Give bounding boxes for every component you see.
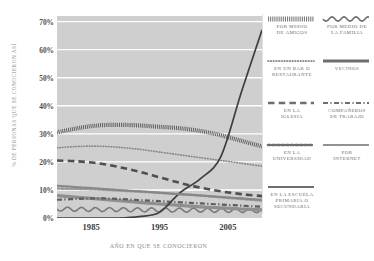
y-tick-label: 10%	[20, 185, 54, 194]
y-axis-ticks: 0%10%20%30%40%50%60%70%	[18, 0, 54, 261]
legend-swatch	[266, 98, 316, 107]
legend-swatch	[266, 182, 316, 191]
legend: POR MEDIODE AMIGOSPOR MEDIO DELA FAMILIA…	[266, 14, 374, 229]
legend-swatch	[321, 56, 371, 65]
legend-item[interactable]: POR MEDIO DELA FAMILIA	[321, 14, 373, 36]
chart-root: % DE PERSONAS QUE SE CONOCIERON ASÍ 0%10…	[0, 0, 374, 261]
x-axis-title: AÑO EN QUE SE CONOCIERON	[56, 243, 261, 249]
legend-label: EN LAIGLESIA	[266, 108, 318, 120]
series-line	[57, 146, 262, 166]
legend-divider	[262, 14, 263, 214]
legend-swatch	[321, 98, 371, 107]
x-tick-label: 1985	[83, 222, 100, 232]
legend-label: POR MEDIODE AMIGOS	[266, 24, 318, 36]
legend-label: COMPAÑEROSDE TRABAJO	[321, 108, 373, 120]
y-axis-title: % DE PERSONAS QUE SE CONOCIERON ASÍ	[11, 5, 17, 205]
y-tick-label: 70%	[20, 17, 54, 26]
legend-label: EN UN BAR ORESTAURANTE	[266, 66, 318, 78]
plot-area	[57, 16, 262, 218]
legend-item[interactable]: VECINOS	[321, 56, 373, 72]
legend-item[interactable]: PORINTERNET	[321, 140, 373, 162]
x-tick-label: 2005	[219, 222, 236, 232]
y-tick-label: 50%	[20, 73, 54, 82]
legend-label: EN LAUNIVERSIDAD	[266, 150, 318, 162]
legend-item[interactable]: EN LA ESCUELAPRIMARIA O SECUNDARIA	[266, 182, 318, 211]
legend-swatch	[321, 14, 371, 23]
legend-item[interactable]: EN LAIGLESIA	[266, 98, 318, 120]
y-tick-label: 30%	[20, 129, 54, 138]
legend-swatch	[321, 140, 371, 149]
legend-item[interactable]: EN UN BAR ORESTAURANTE	[266, 56, 318, 78]
x-tick-label: 1995	[151, 222, 168, 232]
legend-item[interactable]: EN LAUNIVERSIDAD	[266, 140, 318, 162]
legend-line-sample	[323, 17, 369, 21]
legend-label: PORINTERNET	[321, 150, 373, 162]
y-tick-label: 20%	[20, 157, 54, 166]
legend-swatch	[266, 140, 316, 149]
y-tick-label: 40%	[20, 101, 54, 110]
legend-swatch	[266, 56, 316, 65]
y-tick-label: 0%	[20, 214, 54, 223]
series-line	[57, 160, 262, 196]
legend-swatch	[266, 14, 316, 23]
legend-label: EN LA ESCUELAPRIMARIA O SECUNDARIA	[266, 192, 318, 211]
legend-label: VECINOS	[321, 66, 373, 72]
legend-label: POR MEDIO DELA FAMILIA	[321, 24, 373, 36]
series-canvas	[57, 16, 262, 218]
legend-item[interactable]: POR MEDIODE AMIGOS	[266, 14, 318, 36]
y-tick-label: 60%	[20, 45, 54, 54]
legend-item[interactable]: COMPAÑEROSDE TRABAJO	[321, 98, 373, 120]
